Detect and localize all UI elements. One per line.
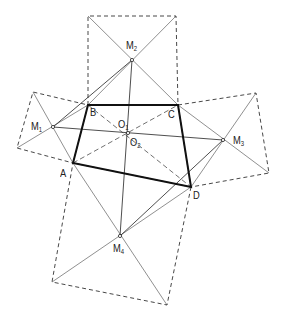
label-m4: M4: [113, 243, 124, 255]
label-c: C: [168, 109, 175, 120]
label-m1: M1: [31, 121, 42, 133]
label-a: A: [60, 168, 66, 179]
square-diagonals: [17, 16, 269, 305]
outer-squares: [17, 16, 269, 305]
label-o2: O2: [130, 137, 141, 149]
diagram-canvas: A B C D M1 M2 M3 M4 O1 O2: [0, 0, 283, 330]
label-m2: M2: [126, 40, 137, 52]
square-on-da: [52, 163, 191, 305]
line-m3-m4: [120, 140, 223, 236]
label-d: D: [193, 190, 200, 201]
label-o1: O1: [118, 119, 129, 131]
label-m3: M3: [233, 135, 244, 147]
label-b: B: [90, 107, 96, 118]
geometry-figure: [0, 0, 283, 330]
